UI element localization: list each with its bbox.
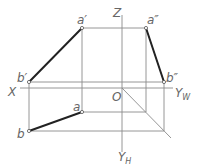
x-axis-label: X bbox=[7, 85, 17, 99]
point-a bbox=[80, 110, 83, 113]
segment-a-b bbox=[29, 112, 82, 131]
segment-a-double-prime-b-double-prime bbox=[146, 28, 164, 82]
yh-axis-label: YH bbox=[118, 150, 131, 165]
label-b: b bbox=[17, 127, 25, 141]
label-b-prime: b′ bbox=[17, 71, 28, 85]
yw-axis-label: YW bbox=[175, 86, 191, 102]
label-a-double-prime: a″ bbox=[147, 13, 159, 27]
origin-label: O bbox=[112, 90, 121, 104]
label-a-prime: a′ bbox=[77, 13, 87, 27]
point-b-prime bbox=[27, 80, 30, 83]
label-b-double-prime: b″ bbox=[166, 71, 179, 85]
segment-a-prime-b-prime bbox=[29, 28, 82, 82]
z-axis-label: Z bbox=[112, 6, 122, 20]
label-a: a bbox=[73, 100, 80, 114]
projection-diagram: Z X O YW YH a′ b′ a″ b″ a b bbox=[0, 0, 197, 165]
point-b bbox=[27, 129, 30, 132]
